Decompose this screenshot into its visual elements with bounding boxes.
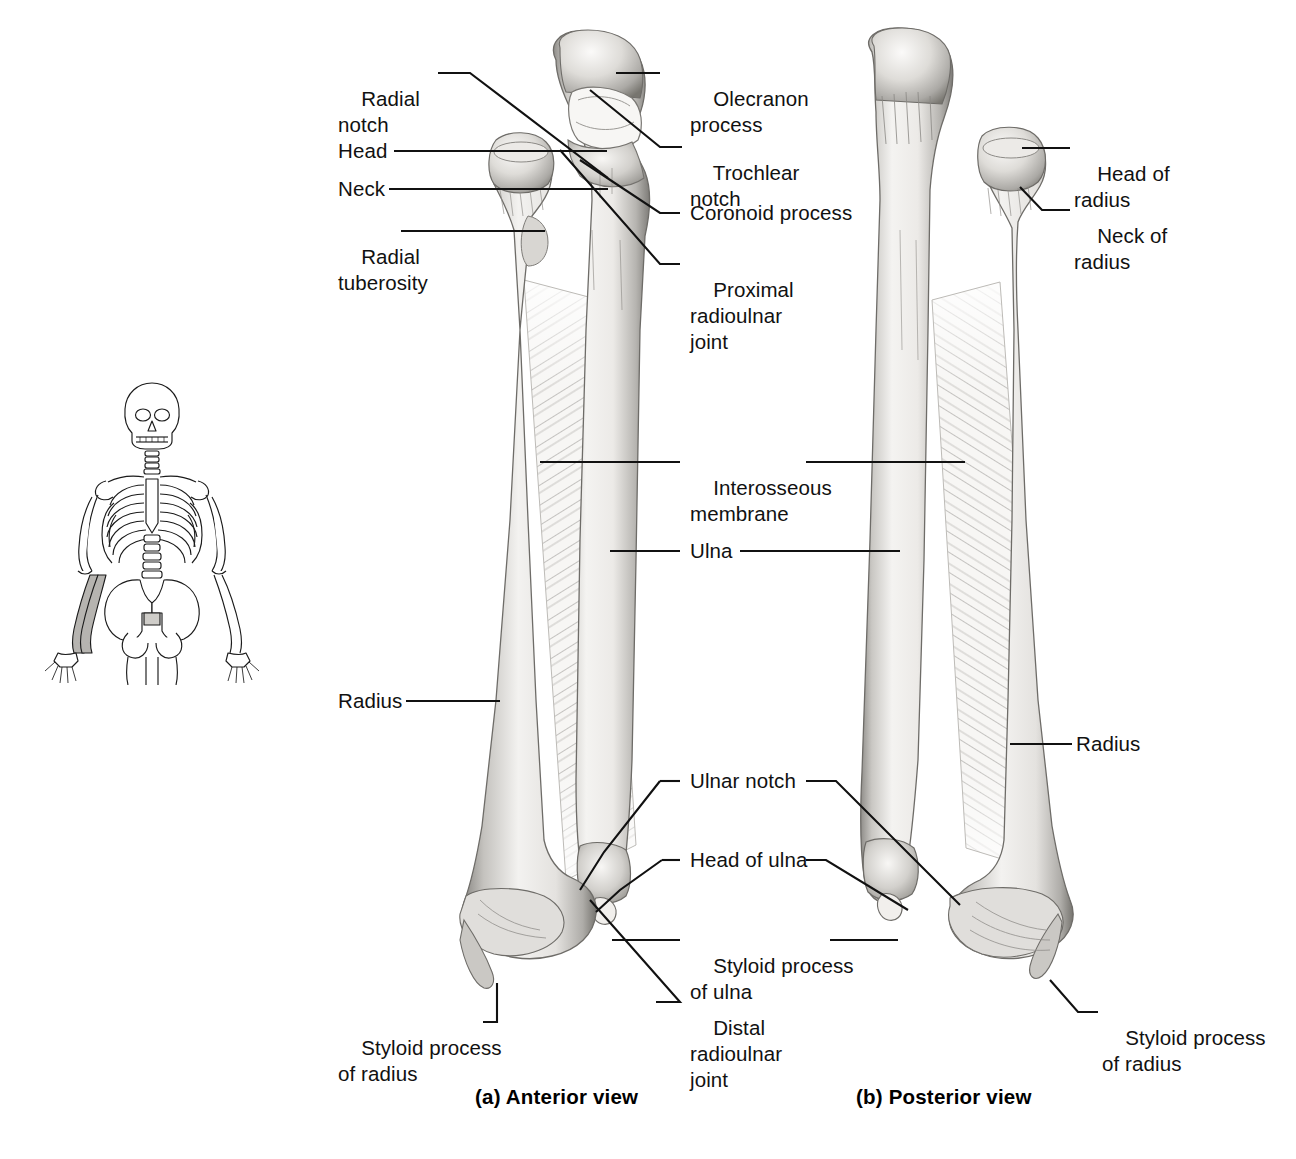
label-coronoid-process: Coronoid process (690, 200, 852, 226)
label-neck-of-radius: Neck ofradius (1074, 197, 1167, 301)
label-head-of-ulna: Head of ulna (690, 847, 807, 873)
highlighted-forearm (73, 575, 107, 653)
label-radius-posterior: Radius (1076, 731, 1140, 757)
caption-posterior-view: (b) Posterior view (856, 1085, 1032, 1109)
anatomical-figure-radius-and-ulna: Radialnotch Head Neck Radialtuberosity R… (0, 0, 1296, 1159)
label-head: Head (338, 138, 387, 164)
label-proximal-radioulnar-joint: Proximalradioulnarjoint (690, 251, 794, 381)
skeleton-orientation-figure (40, 375, 285, 685)
caption-anterior-view: (a) Anterior view (475, 1085, 638, 1109)
ulna-posterior (861, 28, 953, 920)
posterior-view-artwork (861, 28, 1073, 978)
label-ulnar-notch: Ulnar notch (690, 768, 796, 794)
anterior-view-artwork (460, 30, 650, 988)
label-ulna: Ulna (690, 538, 733, 564)
label-radial-tuberosity: Radialtuberosity (338, 218, 428, 322)
label-distal-radioulnar-joint: Distalradioulnarjoint (690, 989, 782, 1119)
label-styloid-process-of-radius-posterior: Styloid processof radius (1102, 999, 1266, 1103)
label-neck: Neck (338, 176, 385, 202)
label-radius-anterior: Radius (338, 688, 402, 714)
